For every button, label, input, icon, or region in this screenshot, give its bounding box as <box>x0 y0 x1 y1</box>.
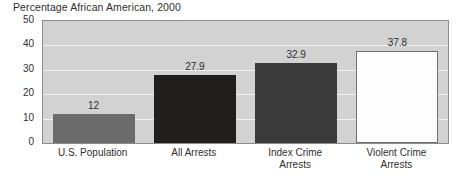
plot-area: 1227.932.937.8 <box>42 20 449 144</box>
y-axis-tick-40: 40 <box>23 39 34 49</box>
x-axis-label-2: All Arrests <box>139 147 249 159</box>
x-axis-label-line: Arrests <box>240 159 350 171</box>
x-axis-label-line: Violent Crime <box>341 147 451 159</box>
bar-2 <box>154 75 236 143</box>
bar-value-label-1: 12 <box>53 101 135 111</box>
y-axis-tick-20: 20 <box>23 88 34 98</box>
x-axis-label-3: Index CrimeArrests <box>240 147 350 170</box>
x-axis-label-line: U.S. Population <box>38 147 148 159</box>
x-axis-label-line: Index Crime <box>240 147 350 159</box>
chart-title: Percentage African American, 2000 <box>13 1 181 14</box>
bar-1 <box>53 114 135 143</box>
bars-layer: 1227.932.937.8 <box>43 21 448 143</box>
x-axis: U.S. PopulationAll ArrestsIndex CrimeArr… <box>42 147 449 179</box>
bar-4 <box>356 51 438 143</box>
x-axis-label-line: All Arrests <box>139 147 249 159</box>
y-axis-tick-0: 0 <box>28 137 34 147</box>
bar-value-label-2: 27.9 <box>154 62 236 72</box>
y-axis: 01020304050 <box>0 14 38 144</box>
x-axis-label-4: Violent CrimeArrests <box>341 147 451 170</box>
x-axis-label-1: U.S. Population <box>38 147 148 159</box>
x-axis-label-line: Arrests <box>341 159 451 171</box>
bar-chart-figure: Percentage African American, 2000 010203… <box>0 0 463 180</box>
y-axis-tick-10: 10 <box>23 113 34 123</box>
y-axis-tick-30: 30 <box>23 64 34 74</box>
bar-3 <box>255 63 337 143</box>
bar-value-label-3: 32.9 <box>255 50 337 60</box>
bar-value-label-4: 37.8 <box>356 38 438 48</box>
y-axis-tick-50: 50 <box>23 15 34 25</box>
